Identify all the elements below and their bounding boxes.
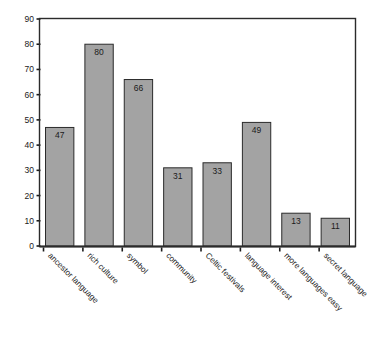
bar-value-label: 31 [173, 171, 183, 181]
bar-chart: 0102030405060708090 4780663133491311 anc… [0, 0, 385, 339]
bar [85, 44, 113, 246]
y-axis-tick-label: 30 [25, 165, 35, 175]
chart-canvas: 0102030405060708090 4780663133491311 anc… [0, 0, 385, 339]
y-axis-tick-label: 60 [25, 90, 35, 100]
bar-value-label: 66 [134, 83, 144, 93]
bar-value-label: 80 [94, 47, 104, 57]
bar [124, 80, 152, 246]
y-axis-tick-label: 70 [25, 64, 35, 74]
y-axis-tick-label: 90 [25, 14, 35, 24]
bar-value-label: 47 [55, 130, 65, 140]
y-axis-tick-label: 80 [25, 39, 35, 49]
bar-value-label: 49 [252, 125, 262, 135]
y-axis-tick-label: 0 [29, 241, 34, 251]
bar-value-label: 13 [291, 216, 301, 226]
bar [46, 127, 74, 246]
bar [242, 122, 270, 246]
y-axis-tick-label: 40 [25, 140, 35, 150]
y-axis-tick-label: 20 [25, 191, 35, 201]
bar-value-label: 11 [331, 221, 340, 231]
bar-value-label: 33 [212, 166, 222, 176]
y-axis-tick-label: 50 [25, 115, 35, 125]
y-axis-tick-label: 10 [25, 216, 35, 226]
